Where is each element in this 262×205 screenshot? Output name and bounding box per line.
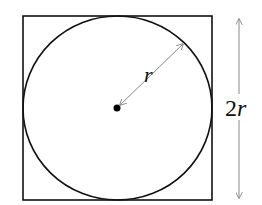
side-length-label: 2r: [225, 95, 247, 121]
radius-label: r: [144, 62, 153, 87]
diagram-canvas: r 2r: [0, 0, 262, 205]
inscribed-circle-diagram: r 2r: [0, 0, 262, 205]
center-dot: [114, 105, 121, 112]
